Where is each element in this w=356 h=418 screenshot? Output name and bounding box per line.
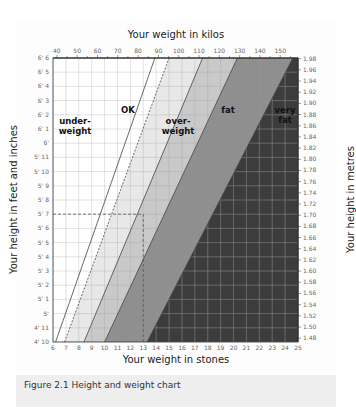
band-label: weight xyxy=(162,126,195,136)
feet-tick: 4' 10 xyxy=(34,338,49,345)
feet-tick: 6' xyxy=(44,139,50,146)
stones-tick: 10 xyxy=(101,344,109,351)
feet-tick: 5' 7 xyxy=(38,210,49,217)
metres-tick: 1.74 xyxy=(303,189,317,196)
metres-tick: 1.84 xyxy=(303,133,317,140)
metres-tick: 1.96 xyxy=(303,66,317,73)
metres-tick: 1.48 xyxy=(303,334,317,341)
metres-tick: 1.68 xyxy=(303,222,317,229)
feet-tick: 5' 1 xyxy=(38,295,49,302)
stones-tick: 7 xyxy=(64,344,68,351)
kilos-tick: 50 xyxy=(73,47,81,54)
stones-tick: 21 xyxy=(243,344,251,351)
stones-tick: 13 xyxy=(139,344,147,351)
feet-tick: 5' 11 xyxy=(34,153,49,160)
feet-tick: 5' 2 xyxy=(38,281,49,288)
stones-tick: 25 xyxy=(294,344,302,351)
metres-tick: 1.66 xyxy=(303,234,317,241)
kilos-tick: 130 xyxy=(234,47,246,54)
metres-tick: 1.90 xyxy=(303,99,317,106)
feet-tick: 4' 11 xyxy=(34,324,49,331)
metres-tick: 1.70 xyxy=(303,211,317,218)
feet-tick: 5' 9 xyxy=(38,182,49,189)
stones-tick: 24 xyxy=(281,344,289,351)
kilos-tick: 140 xyxy=(254,47,266,54)
stones-tick: 12 xyxy=(127,344,135,351)
stones-tick: 22 xyxy=(255,344,263,351)
metres-tick: 1.62 xyxy=(303,256,317,263)
stones-tick: 15 xyxy=(165,344,173,351)
band-label: very xyxy=(274,105,295,115)
stones-tick: 20 xyxy=(230,344,238,351)
metres-tick: 1.88 xyxy=(303,111,317,118)
metres-tick: 1.56 xyxy=(303,289,317,296)
band-label: fat xyxy=(278,115,292,125)
stones-tick: 17 xyxy=(191,344,199,351)
band-label: weight xyxy=(59,126,92,136)
feet-tick: 5' 5 xyxy=(38,239,49,246)
stones-tick: 16 xyxy=(178,344,186,351)
kilos-tick: 90 xyxy=(155,47,163,54)
band-label: OK xyxy=(121,105,135,115)
stones-tick: 23 xyxy=(268,344,276,351)
feet-tick: 5' 6 xyxy=(38,224,49,231)
metres-tick: 1.52 xyxy=(303,312,317,319)
feet-tick: 6' 2 xyxy=(38,111,49,118)
stones-tick: 18 xyxy=(204,344,212,351)
stones-tick: 14 xyxy=(152,344,160,351)
stones-tick: 6 xyxy=(51,344,55,351)
feet-tick: 5' 3 xyxy=(38,267,49,274)
metres-tick: 1.50 xyxy=(303,323,317,330)
metres-tick: 1.78 xyxy=(303,166,317,173)
kilos-tick: 110 xyxy=(193,47,205,54)
metres-tick: 1.72 xyxy=(303,200,317,207)
kilos-tick: 100 xyxy=(173,47,185,54)
kilos-tick: 70 xyxy=(114,47,122,54)
metres-tick: 1.86 xyxy=(303,122,317,129)
feet-tick: 6' 3 xyxy=(38,97,49,104)
stones-tick: 19 xyxy=(217,344,225,351)
kilos-tick: 60 xyxy=(94,47,102,54)
feet-tick: 5' 10 xyxy=(34,168,49,175)
feet-tick: 6' 6 xyxy=(38,54,49,61)
metres-tick: 1.80 xyxy=(303,155,317,162)
kilos-tick: 150 xyxy=(275,47,287,54)
metres-tick: 1.82 xyxy=(303,144,317,151)
metres-tick: 1.58 xyxy=(303,278,317,285)
metres-tick: 1.60 xyxy=(303,267,317,274)
stones-tick: 8 xyxy=(77,344,81,351)
feet-tick: 5' 4 xyxy=(38,253,49,260)
stones-tick: 11 xyxy=(114,344,122,351)
feet-tick: 5' 8 xyxy=(38,196,49,203)
metres-tick: 1.64 xyxy=(303,245,317,252)
metres-tick: 1.94 xyxy=(303,77,317,84)
kilos-tick: 80 xyxy=(134,47,142,54)
feet-tick: 5' xyxy=(44,310,50,317)
stones-tick: 9 xyxy=(90,344,94,351)
feet-tick: 6' 1 xyxy=(38,125,49,132)
kilos-tick: 40 xyxy=(53,47,61,54)
metres-tick: 1.92 xyxy=(303,88,317,95)
kilos-tick: 120 xyxy=(214,47,226,54)
metres-tick: 1.98 xyxy=(303,55,317,62)
metres-tick: 1.54 xyxy=(303,301,317,308)
band-label: over- xyxy=(166,116,191,126)
feet-tick: 6' 4 xyxy=(38,82,49,89)
band-label: under- xyxy=(59,116,91,126)
metres-tick: 1.76 xyxy=(303,178,317,185)
feet-tick: 6' 5 xyxy=(38,68,49,75)
band-label: fat xyxy=(221,105,235,115)
